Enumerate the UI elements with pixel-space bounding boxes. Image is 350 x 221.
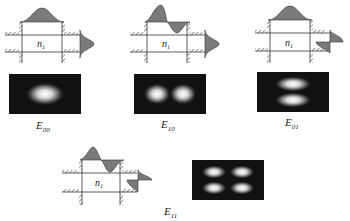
mode-label-e00: E00 — [35, 119, 50, 134]
horizontal-field-profile — [145, 5, 190, 33]
mode-panel-e11: n1 E11 — [62, 147, 264, 220]
mode-label-e01: E01 — [284, 116, 299, 131]
mode-label-e10: E10 — [160, 118, 175, 133]
core-index-label: n1 — [162, 38, 170, 50]
mode-panel-e00: n1 E00 — [5, 8, 94, 134]
waveguide-cross-section — [5, 22, 80, 63]
mode-intensity-image — [134, 74, 206, 114]
horizontal-field-profile — [20, 8, 64, 22]
mode-intensity-image — [257, 72, 329, 112]
core-index-label: n1 — [95, 177, 103, 189]
vertical-field-profile — [205, 30, 219, 58]
waveguide-cross-section — [130, 22, 205, 63]
waveguide-modes-diagram: n1 E00 n1 E10 — [0, 0, 350, 221]
core-index-label: n1 — [285, 37, 293, 49]
waveguide-cross-section — [255, 20, 330, 63]
core-index-label: n1 — [37, 38, 45, 50]
mode-intensity-image — [9, 74, 81, 114]
mode-label-e11: E11 — [163, 205, 177, 220]
vertical-field-profile — [80, 30, 94, 58]
horizontal-field-profile — [80, 147, 124, 172]
mode-panel-e10: n1 E10 — [130, 5, 219, 133]
horizontal-field-profile — [268, 6, 312, 20]
mode-intensity-image — [192, 160, 264, 200]
mode-panel-e01: n1 E01 — [255, 6, 343, 131]
